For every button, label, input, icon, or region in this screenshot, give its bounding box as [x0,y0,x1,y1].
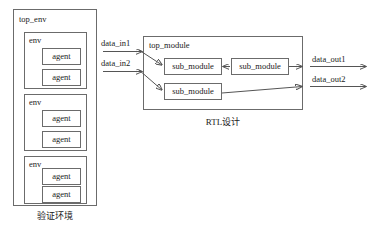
top-env-label: top_env [19,15,46,24]
top-env-box: top_env env agent agent env agent agent … [13,9,97,206]
sub-module-box: sub_module [231,58,289,75]
rtl-design-caption: RTL设计 [143,118,303,127]
signal-label-data-out1: data_out1 [312,55,346,64]
agent-box: agent [42,186,81,203]
verification-environment-caption: 验证环境 [13,212,97,221]
agent-label: agent [43,49,80,64]
agent-label: agent [43,70,80,85]
agent-box: agent [42,110,81,127]
env-box: env agent agent [24,32,87,89]
agent-label: agent [43,187,80,202]
signal-label-data-out2: data_out2 [312,75,346,84]
env-label: env [29,98,41,107]
top-module-label: top_module [149,41,190,50]
agent-box: agent [42,131,81,148]
diagram-canvas: top_env env agent agent env agent agent … [0,0,369,235]
signal-label-data-in1: data_in1 [101,39,130,48]
signal-label-data-in2: data_in2 [101,59,130,68]
agent-box: agent [42,168,81,185]
agent-label: agent [43,111,80,126]
sub-module-box: sub_module [164,83,222,100]
agent-box: agent [42,48,81,65]
env-label: env [29,160,41,169]
env-box: env agent agent [24,94,87,151]
sub-module-label: sub_module [232,59,288,74]
agent-label: agent [43,169,80,184]
sub-module-box: sub_module [164,58,222,75]
agent-label: agent [43,132,80,147]
env-label: env [29,36,41,45]
sub-module-label: sub_module [165,59,221,74]
env-box: env agent agent [24,156,87,204]
sub-module-label: sub_module [165,84,221,99]
agent-box: agent [42,69,81,86]
